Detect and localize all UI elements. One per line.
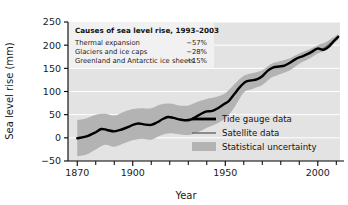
- y-axis-label: Sea level rise (mm): [4, 42, 15, 140]
- y-tick-label: 100: [43, 86, 61, 97]
- legend-marker-uncertainty: [192, 142, 216, 151]
- y-tick-label: 250: [43, 16, 61, 27]
- sea-level-rise-chart-figure: Causes of sea level rise, 1993–2003 Ther…: [0, 0, 348, 205]
- inset-title: Causes of sea level rise, 1993–2003: [75, 26, 219, 35]
- inset-row-label-2: Greenland and Antarctic ice sheets: [75, 57, 195, 65]
- y-tick-label: −50: [41, 155, 61, 166]
- y-tick-label: 150: [43, 63, 61, 74]
- x-tick-label: 1900: [121, 167, 145, 178]
- x-tick-label: 2000: [306, 167, 330, 178]
- causes-inset-box: Causes of sea level rise, 1993–2003 Ther…: [68, 22, 219, 68]
- legend-label-tide-gauge: Tide gauge data: [221, 114, 292, 124]
- y-axis-ticks: −50050100150200250: [41, 16, 68, 166]
- inset-row-value-2: ~15%: [186, 57, 207, 65]
- inset-row-value-0: ~57%: [186, 39, 207, 47]
- x-axis-ticks: 1870190019502000: [65, 161, 336, 178]
- inset-row-label-0: Thermal expansion: [74, 39, 140, 47]
- y-tick-label: 0: [55, 132, 61, 143]
- legend-label-uncertainty: Statistical uncertainty: [222, 142, 317, 152]
- x-tick-label: 1950: [213, 167, 237, 178]
- legend-label-satellite: Satellite data: [222, 128, 279, 138]
- x-axis-label: Year: [174, 190, 197, 201]
- chart-canvas: Causes of sea level rise, 1993–2003 Ther…: [0, 0, 348, 205]
- y-tick-label: 50: [49, 109, 61, 120]
- y-tick-label: 200: [43, 40, 61, 51]
- x-tick-label: 1870: [65, 167, 89, 178]
- inset-row-label-1: Glaciers and ice caps: [75, 48, 148, 56]
- inset-row-value-1: ~28%: [186, 48, 207, 56]
